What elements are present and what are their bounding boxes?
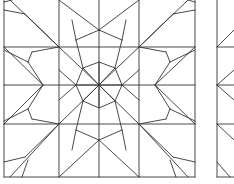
pattern-line xyxy=(122,20,126,40)
pattern-line xyxy=(28,62,43,85)
pattern-line xyxy=(28,85,43,109)
pattern-line xyxy=(139,47,166,52)
pattern-line xyxy=(217,85,234,100)
pattern-line xyxy=(4,50,28,62)
pattern-line xyxy=(10,124,59,177)
pattern-line xyxy=(25,124,59,157)
pattern-line xyxy=(188,0,195,2)
pattern-line xyxy=(217,70,234,85)
pattern-line xyxy=(217,162,230,177)
pattern-line xyxy=(166,109,170,119)
pattern-line xyxy=(99,140,139,177)
pattern-line xyxy=(170,50,195,62)
pattern-line xyxy=(122,130,126,150)
geometric-pattern-figure xyxy=(0,0,234,184)
pattern-line xyxy=(99,130,122,140)
pattern-line xyxy=(115,101,122,130)
pattern-line xyxy=(76,30,99,40)
pattern-svg xyxy=(0,0,234,184)
pattern-line xyxy=(99,0,139,30)
pattern-line xyxy=(173,157,195,162)
pattern-line xyxy=(139,119,166,124)
pattern-line xyxy=(139,124,188,177)
octagon-spoke xyxy=(83,85,99,101)
pattern-line xyxy=(28,52,32,62)
pattern-line xyxy=(122,85,139,100)
pattern-line xyxy=(28,109,32,119)
pattern-line xyxy=(72,20,76,40)
pattern-line xyxy=(139,124,173,157)
octagon-spoke xyxy=(99,85,115,101)
pattern-line xyxy=(25,14,59,47)
pattern-line xyxy=(59,140,99,177)
pattern-line xyxy=(76,101,83,130)
pattern-line xyxy=(170,109,195,121)
pattern-line xyxy=(32,47,59,52)
pattern-line xyxy=(59,70,76,85)
pattern-line xyxy=(4,157,25,162)
pattern-line xyxy=(76,130,99,140)
pattern-line xyxy=(122,70,139,85)
pattern-line xyxy=(72,130,76,150)
pattern-line xyxy=(139,14,173,47)
pattern-line xyxy=(4,109,28,121)
pattern-line xyxy=(59,85,76,100)
pattern-line xyxy=(217,124,234,140)
pattern-line xyxy=(59,0,99,30)
pattern-line xyxy=(4,10,25,14)
pattern-line xyxy=(217,30,234,47)
octagon-spoke xyxy=(83,68,99,85)
pattern-line xyxy=(32,119,59,124)
octagon-spoke xyxy=(99,68,115,85)
pattern-line xyxy=(99,30,122,40)
pattern-line xyxy=(166,52,170,62)
